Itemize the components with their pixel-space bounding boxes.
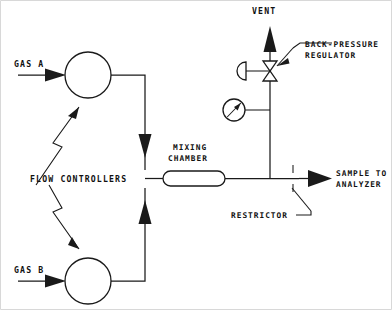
controller-a-to-manifold-stream: [111, 75, 152, 170]
vent-label: VENT: [252, 6, 276, 16]
back-pressure-regulator-label-line2: REGULATOR: [305, 51, 356, 60]
gas-b-inlet-stream: [18, 275, 66, 288]
pressure-gauge: [223, 99, 270, 121]
flow-controller-b-leader: [49, 185, 79, 249]
schematic-canvas: GAS A GAS B FLOW CONTROLLERS MIXING CHAM…: [0, 0, 392, 310]
restrictor-leader: [292, 188, 311, 215]
sample-to-analyzer-stream: [299, 170, 332, 187]
back-pressure-regulator-label-line1: BACK-PRESSURE: [305, 40, 379, 49]
gas-a-inlet-stream: [18, 69, 66, 82]
gas-b-label: GAS B: [14, 265, 44, 275]
flow-controller-a: [65, 52, 111, 98]
sample-to-analyzer-label-line1: SAMPLE TO: [336, 169, 387, 178]
flow-controllers-label: FLOW CONTROLLERS: [30, 174, 127, 184]
controller-b-to-manifold-stream: [111, 188, 152, 281]
schematic-diagram: GAS A GAS B FLOW CONTROLLERS MIXING CHAM…: [0, 0, 392, 310]
sample-to-analyzer-label-line2: ANALYZER: [336, 180, 382, 189]
flow-controller-b: [65, 258, 111, 304]
restrictor-label: RESTRICTOR: [231, 211, 288, 220]
mixing-chamber-label-line2: CHAMBER: [168, 154, 208, 163]
riser-to-vent-stream: [264, 26, 277, 179]
gas-a-label: GAS A: [14, 59, 44, 69]
back-pressure-regulator: [237, 61, 277, 81]
mixing-chamber: [163, 171, 225, 186]
mixing-chamber-label-line1: MIXING: [173, 143, 207, 152]
